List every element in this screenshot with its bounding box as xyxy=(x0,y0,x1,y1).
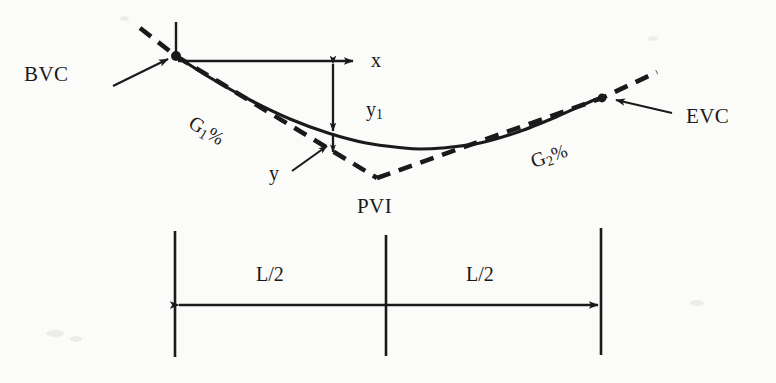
y-offset-label: y xyxy=(269,163,279,183)
evc-point-marker xyxy=(598,94,607,103)
vertical-curve-solid xyxy=(176,56,602,149)
x-axis-label: x xyxy=(371,50,381,70)
figure-canvas: BVC EVC PVI x y1 y G1% G2% L/2 L/2 xyxy=(0,0,776,383)
half-length-right-label: L/2 xyxy=(466,264,494,284)
pvi-label: PVI xyxy=(357,196,392,217)
y1-label-base: y xyxy=(366,98,376,120)
bvc-label: BVC xyxy=(24,64,68,85)
evc-label: EVC xyxy=(686,106,729,127)
paper-speckle xyxy=(120,16,129,21)
vertical-curve-figure xyxy=(0,0,776,383)
bvc-leader-arrow xyxy=(113,59,168,86)
y1-label-subscript: 1 xyxy=(376,107,383,122)
paper-speckle xyxy=(46,330,64,337)
paper-speckle xyxy=(648,36,658,41)
paper-speckle xyxy=(690,300,704,306)
half-length-left-label: L/2 xyxy=(256,264,284,284)
y1-label: y1 xyxy=(366,99,383,119)
paper-speckle xyxy=(70,336,82,342)
y-leader-arrow xyxy=(292,146,327,171)
evc-leader-arrow xyxy=(616,100,672,113)
grade-g2-tangent-dashed xyxy=(377,72,657,178)
bvc-point-marker xyxy=(171,51,181,61)
